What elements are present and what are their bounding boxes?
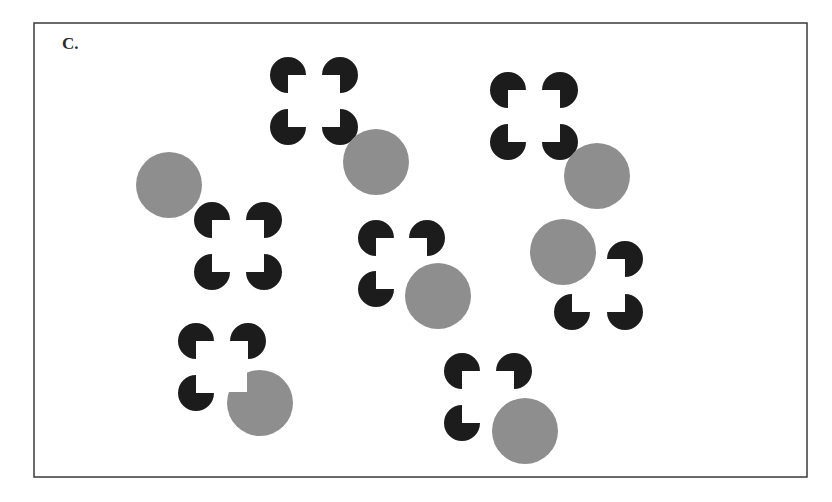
pacman-inducer-tr [246,202,282,238]
pacman-inducer-tr [322,57,358,93]
pacman-inducer-tl [358,220,394,256]
kanizsa-figure [0,0,832,502]
inducer-group-2 [490,72,630,209]
pacman-inducer-tr [230,323,266,359]
inducer-group-5 [530,219,643,330]
gray-disc [136,152,202,218]
pacman-inducer-bl [554,294,590,330]
figure-canvas: C. [0,0,832,502]
pacman-inducer-tr [496,353,532,389]
inducer-group-3 [136,152,282,290]
panel-label: C. [62,34,79,54]
pacman-inducer-br [607,294,643,330]
pacman-inducer-tl [178,323,214,359]
inducer-group-4 [358,220,471,329]
gray-disc [564,143,630,209]
pacman-inducer-tr [409,220,445,256]
pacman-inducer-bl [490,124,526,160]
pacman-inducer-tr [607,241,643,277]
pacman-inducer-bl [194,254,230,290]
pacman-inducer-bl [270,109,306,145]
pacman-inducer-bl [444,405,480,441]
pacman-inducer-tr [542,72,578,108]
pacman-inducer-bl [178,375,214,411]
inducer-group-1 [270,57,409,195]
pacman-inducer-tl [270,57,306,93]
pacman-inducer-bl [358,271,394,307]
pacman-inducer-tl [444,353,480,389]
gray-disc [492,398,558,464]
inducer-group-6 [178,323,293,436]
figure-frame [34,23,807,477]
pacman-inducer-tl [194,202,230,238]
gray-disc [405,263,471,329]
inducer-group-7 [444,353,558,464]
pacman-inducer-br [246,254,282,290]
gray-disc [343,129,409,195]
gray-notched-disc [227,370,293,436]
pacman-inducer-tl [490,72,526,108]
gray-disc [530,219,596,285]
